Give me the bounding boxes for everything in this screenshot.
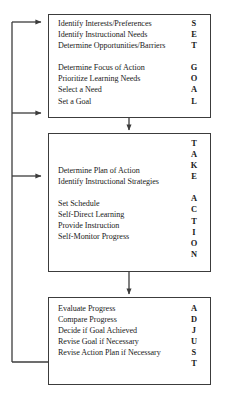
task-line: Select a Need [58,84,176,95]
acronym-letter: T [186,358,202,369]
task-line: Provide Instruction [58,220,176,231]
task-line: Revise Goal if Necessary [58,336,176,347]
acronym-letter: J [186,325,202,336]
acronym-letter: C [186,204,202,215]
task-line: Set a Goal [58,96,176,107]
acronym-column-take-action: T A K E A C T I O N [186,138,202,260]
task-line: Identify Interests/Preferences [58,18,176,29]
acronym-letter: G [186,62,202,73]
task-line: Decide if Goal Achieved [58,325,176,336]
acronym-letter: L [186,96,202,107]
task-line: Set Schedule [58,198,176,209]
task-group-separator [58,187,176,198]
acronym-letter: S [186,18,202,29]
acronym-separator [186,182,202,193]
task-line: Determine Opportunities/Barriers [58,40,176,51]
acronym-letter: U [186,336,202,347]
acronym-letter: O [186,73,202,84]
stage-box-set-goal: Identify Interests/Preferences Identify … [48,14,211,118]
task-line: Self-Monitor Progress [58,231,176,242]
acronym-letter: S [186,347,202,358]
acronym-letter: T [186,40,202,51]
task-column-take-action: Determine Plan of Action Identify Instru… [58,165,176,243]
acronym-letter: I [186,227,202,238]
acronym-letter: E [186,29,202,40]
acronym-separator [186,51,202,62]
acronym-letter: K [186,160,202,171]
acronym-letter: N [186,249,202,260]
task-group-separator [58,51,176,62]
acronym-letter: A [186,149,202,160]
acronym-letter: A [186,303,202,314]
task-group-action: Set Schedule Self-Direct Learning Provid… [58,198,176,242]
acronym-column-set-goal: S E T G O A L [186,18,202,107]
stage-box-adjust: Evaluate Progress Compare Progress Decid… [48,297,211,385]
acronym-column-adjust: A D J U S T [186,303,202,370]
acronym-letter: A [186,193,202,204]
task-line: Identify Instructional Needs [58,29,176,40]
acronym-letter: O [186,238,202,249]
acronym-letter: A [186,84,202,95]
task-line: Evaluate Progress [58,303,176,314]
flowchart-diagram: Identify Interests/Preferences Identify … [0,0,227,401]
task-group-adjust: Evaluate Progress Compare Progress Decid… [58,303,176,358]
stage-box-take-action: Determine Plan of Action Identify Instru… [48,133,211,272]
acronym-letter: T [186,216,202,227]
task-group-set: Identify Interests/Preferences Identify … [58,18,176,51]
task-line: Prioritize Learning Needs [58,73,176,84]
acronym-letter: D [186,314,202,325]
task-column-set-goal: Identify Interests/Preferences Identify … [58,18,176,107]
acronym-letter: T [186,138,202,149]
task-line: Determine Focus of Action [58,62,176,73]
task-group-goal: Determine Focus of Action Prioritize Lea… [58,62,176,106]
task-column-adjust: Evaluate Progress Compare Progress Decid… [58,303,176,358]
task-line: Identify Instructional Strategies [58,176,176,187]
task-line: Self-Direct Learning [58,209,176,220]
task-line: Determine Plan of Action [58,165,176,176]
task-line: Revise Action Plan if Necessary [58,347,176,358]
task-line: Compare Progress [58,314,176,325]
task-group-take: Determine Plan of Action Identify Instru… [58,165,176,187]
acronym-letter: E [186,171,202,182]
